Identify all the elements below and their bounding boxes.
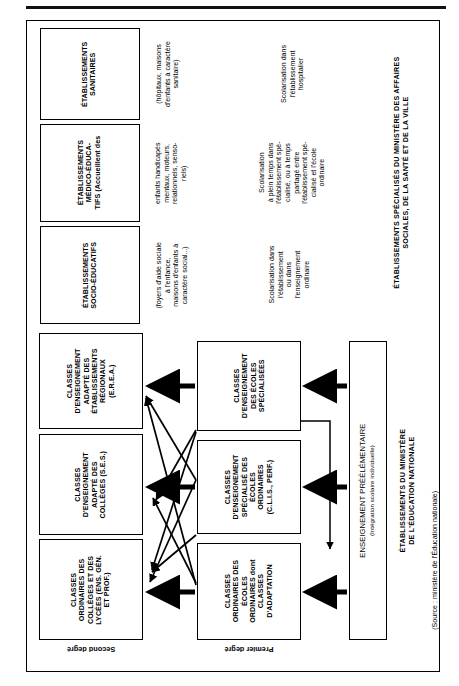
box-classes-ordinaires-colleges-lycees[interactable]: CLASSESORDINAIRES DESCOLLÈGES ET DESLYCÉ… (39, 539, 143, 640)
box-classes-enseignement-adapte-ses[interactable]: CLASSESD'ENSEIGNEMENTADAPTÉ DESCOLLÈGES … (39, 434, 143, 535)
box-enseignement-preelementaire[interactable]: ENSEIGNEMENT PRÉÉLÉMENTAIRE(Intégration … (349, 341, 387, 640)
source-note-text: (Source : ministère de l'Éducation natio… (431, 491, 440, 630)
box-classes-ordinaires-ecoles-ordinaires-adaptation[interactable]: CLASSESORDINAIRES DESÉCOLESORDINAIRES do… (197, 543, 301, 640)
detail-etablissements-medico-educatifs: enfants handicapésmentaux, moteurs,relat… (140, 124, 204, 222)
box-label: CLASSESD'ENSEIGNEMENTSPÉCIALISÉ DESÉCOLE… (224, 455, 274, 520)
label-premier-degre: Premier degré (203, 645, 295, 654)
box-etablissements-sanitaires[interactable]: ÉTABLISSEMENTSSANITAIRES (40, 28, 140, 120)
education-nationale-section-title: ÉTABLISSEMENTS DU MINISTÈREDE L'ÉDUCATIO… (392, 341, 424, 640)
source-note: (Source : ministère de l'Éducation natio… (424, 470, 446, 650)
box-label: CLASSESORDINAIRES DESÉCOLESORDINAIRES do… (224, 560, 274, 623)
specialised-section-title: ÉTABLISSEMENTS SPÉCIALISÉS DU MINISTÈRE … (382, 20, 422, 326)
schooling-etablissements-medico-educatifs: Scolarisationà plein temps dansl'établis… (240, 124, 344, 222)
box-label: CLASSESD'ENSEIGNEMENTADAPTÉ DESCOLLÈGES … (74, 451, 107, 519)
box-detail: (hôpitaux, maisonsd'enfants à caractères… (155, 41, 181, 107)
page-top-rule (26, 6, 446, 9)
figure-canvas: ÉTABLISSEMENTSSANITAIRES (hôpitaux, mais… (0, 0, 459, 686)
detail-etablissements-sanitaires: (hôpitaux, maisonsd'enfants à caractères… (140, 28, 196, 120)
box-label: CLASSESORDINAIRES DESCOLLÈGES ET DESLYCÉ… (70, 555, 112, 625)
schooling-etablissements-socio-educatifs: Scolarisation dansl'établissementou dans… (250, 226, 330, 324)
label-second-degre: Second degré (45, 645, 137, 654)
preelementaire-label: ENSEIGNEMENT PRÉÉLÉMENTAIRE(Intégration … (359, 423, 376, 557)
box-etablissements-socio-educatifs[interactable]: ÉTABLISSEMENTSSOCIO-ÉDUCATIFS (40, 226, 140, 324)
box-classes-enseignement-ecoles-specialisees[interactable]: CLASSESD'ENSEIGNEMENTDES ÉCOLESSPÉCIALIS… (197, 341, 301, 431)
schooling-text: Scolarisation dansl'établissementhospita… (280, 45, 306, 103)
box-detail: (foyers d'aide socialeà l'enfance,maison… (155, 242, 190, 308)
box-classes-enseignement-adapte-erea[interactable]: CLASSESD'ENSEIGNEMENTADAPTÉ DESÉTABLISSE… (39, 333, 143, 429)
box-label: CLASSESD'ENSEIGNEMENTDES ÉCOLESSPÉCIALIS… (232, 354, 265, 419)
box-classes-enseignement-specialise-ecoles-ordinaires[interactable]: CLASSESD'ENSEIGNEMENTSPÉCIALISÉ DESÉCOLE… (197, 440, 301, 534)
box-heading: ÉTABLISSEMENTSSOCIO-ÉDUCATIFS (82, 242, 99, 309)
box-label: CLASSESD'ENSEIGNEMENTADAPTÉ DESÉTABLISSE… (66, 348, 116, 414)
schooling-text: Scolarisation dansl'établissementou dans… (268, 246, 311, 304)
box-heading: ÉTABLISSEMENTSMÉDICO-ÉDUCA-TIFS (Accueil… (77, 136, 102, 210)
specialised-section-title-text: ÉTABLISSEMENTS SPÉCIALISÉS DU MINISTÈRE … (393, 57, 410, 289)
schooling-text: Scolarisationà plein temps dansl'établis… (257, 142, 326, 204)
box-detail: enfants handicapésmentaux, moteurs,relat… (155, 142, 190, 204)
box-heading: ÉTABLISSEMENTSSANITAIRES (82, 41, 99, 107)
education-nationale-title-text: ÉTABLISSEMENTS DU MINISTÈREDE L'ÉDUCATIO… (399, 429, 416, 553)
schooling-etablissements-sanitaires: Scolarisation dansl'établissementhospita… (258, 28, 328, 120)
detail-etablissements-socio-educatifs: (foyers d'aide socialeà l'enfance,maison… (140, 226, 204, 324)
box-etablissements-medico-educatifs[interactable]: ÉTABLISSEMENTSMÉDICO-ÉDUCA-TIFS (Accueil… (40, 124, 140, 222)
